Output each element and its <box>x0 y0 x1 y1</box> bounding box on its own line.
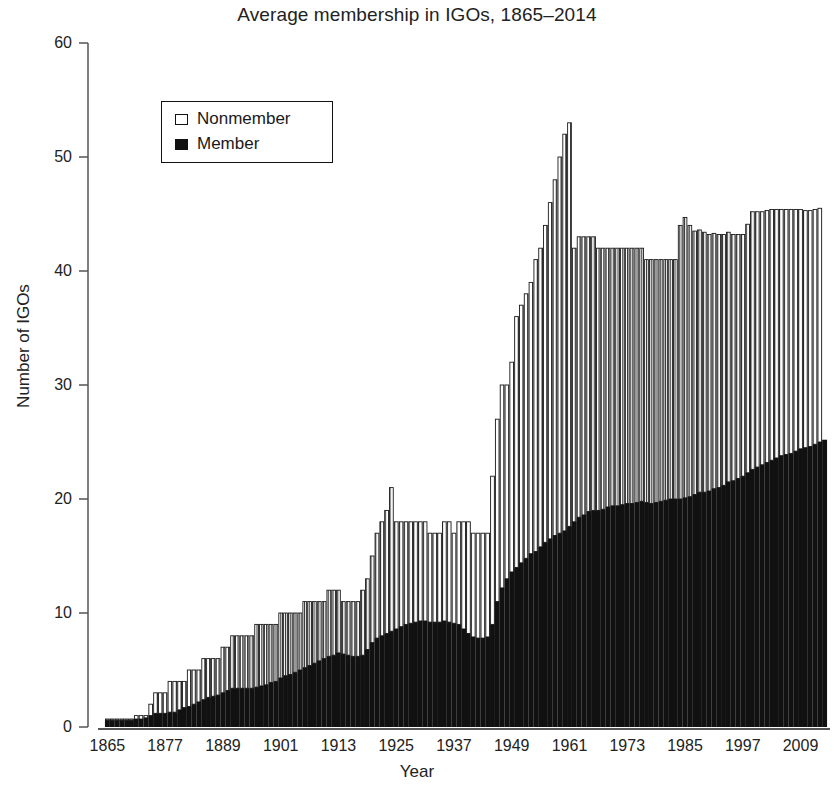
bar-member <box>245 688 250 727</box>
bar-member <box>452 623 457 727</box>
bar-nonmember <box>288 613 292 675</box>
bar-member <box>779 456 784 727</box>
bar-member <box>288 675 293 727</box>
bar-member <box>447 622 452 727</box>
bar-nonmember <box>587 237 591 512</box>
bar-member <box>235 688 240 727</box>
bar-member <box>553 535 558 727</box>
bar-nonmember <box>548 203 552 539</box>
bar-member <box>519 563 524 727</box>
bar-member <box>201 700 206 727</box>
bar-nonmember <box>235 636 239 688</box>
bar-member <box>355 656 360 727</box>
bar-nonmember <box>765 211 769 463</box>
bar-member <box>302 668 307 727</box>
bar-member <box>731 481 736 727</box>
bar-member <box>158 713 163 727</box>
bar-member <box>283 676 288 727</box>
bar-member <box>630 504 635 727</box>
bar-nonmember <box>332 590 336 655</box>
bar-nonmember <box>163 693 167 714</box>
bar-nonmember <box>601 248 605 509</box>
bar-member <box>139 719 144 727</box>
bar-member <box>379 636 384 727</box>
bar-member <box>187 706 192 727</box>
bar-nonmember <box>606 248 610 507</box>
bar-nonmember <box>240 636 244 688</box>
bar-nonmember <box>558 157 562 533</box>
bar-nonmember <box>654 260 658 503</box>
bar-nonmember <box>505 385 509 579</box>
bar-member <box>726 482 731 727</box>
bar-nonmember <box>168 681 172 712</box>
bar-nonmember <box>486 533 490 637</box>
bar-member <box>567 526 572 727</box>
bar-nonmember <box>751 212 755 470</box>
bar-member <box>663 500 668 727</box>
bar-member <box>110 720 115 727</box>
bar-member <box>769 460 774 727</box>
bar-member <box>269 683 274 727</box>
bar-member <box>225 691 230 727</box>
bar-member <box>331 655 336 727</box>
bar-nonmember <box>346 602 350 656</box>
bar-nonmember <box>274 624 278 681</box>
bar-member <box>148 716 153 727</box>
chart-legend: Nonmember Member <box>161 101 333 163</box>
bar-nonmember <box>630 248 634 503</box>
bar-nonmember <box>197 670 201 702</box>
bar-member <box>577 517 582 727</box>
bar-member <box>601 509 606 727</box>
bar-member <box>716 488 721 727</box>
bar-member <box>634 502 639 727</box>
bar-member <box>678 499 683 727</box>
bar-nonmember <box>515 317 519 568</box>
bar-nonmember <box>481 533 485 638</box>
bar-member <box>490 624 495 727</box>
bar-nonmember <box>313 602 317 664</box>
bar-member <box>177 710 182 727</box>
bar-member <box>408 623 413 727</box>
bar-nonmember <box>351 602 355 657</box>
bar-nonmember <box>149 704 153 715</box>
bar-nonmember <box>674 260 678 499</box>
bar-member <box>596 510 601 727</box>
bar-nonmember <box>568 123 572 527</box>
bar-nonmember <box>457 522 461 625</box>
bar-member <box>153 713 158 727</box>
bar-nonmember <box>385 510 389 633</box>
bar-member <box>581 515 586 727</box>
bar-nonmember <box>428 533 432 622</box>
bar-member <box>533 551 538 727</box>
bar-member <box>341 654 346 727</box>
bar-member <box>784 455 789 727</box>
bar-nonmember <box>226 647 230 690</box>
bar-member <box>124 720 129 727</box>
bar-nonmember <box>418 522 422 621</box>
bar-member <box>264 685 269 727</box>
bar-nonmember <box>563 134 567 531</box>
bar-nonmember <box>731 235 735 481</box>
bar-member <box>423 621 428 727</box>
bar-nonmember <box>317 602 321 661</box>
bar-member <box>557 533 562 727</box>
bar-nonmember <box>110 719 114 720</box>
bar-member <box>707 491 712 727</box>
bar-member <box>697 492 702 727</box>
bar-member <box>788 453 793 727</box>
bar-nonmember <box>476 533 480 638</box>
bar-member <box>172 712 177 727</box>
bar-nonmember <box>106 719 110 720</box>
bar-nonmember <box>337 590 341 653</box>
bar-member <box>654 502 659 727</box>
bar-nonmember <box>722 235 726 486</box>
bar-nonmember <box>702 232 706 492</box>
bar-nonmember <box>221 647 225 693</box>
bar-nonmember <box>779 209 783 455</box>
bar-member <box>803 448 808 727</box>
bar-nonmember <box>519 305 523 563</box>
bar-nonmember <box>664 260 668 501</box>
bar-member <box>692 494 697 727</box>
bar-nonmember <box>452 533 456 623</box>
bar-nonmember <box>760 212 764 465</box>
